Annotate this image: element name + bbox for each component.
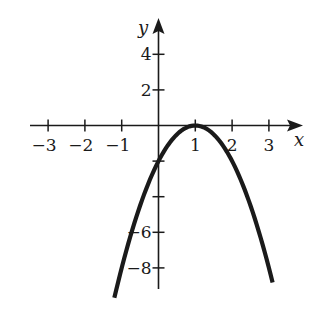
x-tick-label: −2 bbox=[68, 135, 93, 155]
y-tick-label: 4 bbox=[141, 44, 152, 64]
chart: x y −3−2−1123 42−6−8 bbox=[0, 0, 332, 314]
x-tick-label: 3 bbox=[263, 135, 274, 155]
y-axis-label: y bbox=[137, 17, 149, 38]
x-axis-label: x bbox=[294, 129, 304, 150]
x-tick-label: −1 bbox=[105, 135, 130, 155]
y-tick-label: −8 bbox=[126, 258, 151, 278]
y-tick-label: 2 bbox=[141, 80, 152, 100]
x-tick-label: 1 bbox=[190, 135, 201, 155]
x-tick-label: −3 bbox=[32, 135, 57, 155]
